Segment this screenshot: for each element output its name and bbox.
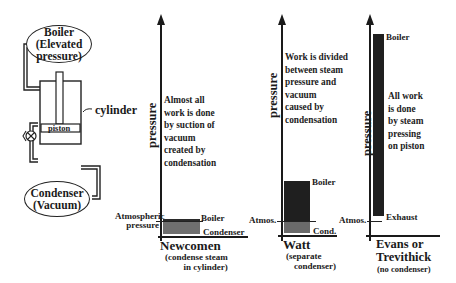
piston-label: piston (48, 123, 70, 133)
condenser-label: Condenser (30, 187, 83, 199)
panel-note: All work is done by steam pressing on pi… (388, 90, 424, 153)
engine-subtitle: (separate condenser) (286, 251, 336, 271)
panel-note: Work is divided between steam pressure a… (285, 51, 348, 127)
atmospheric-label: Atmos. (249, 215, 276, 225)
boiler-pressure-label: Boiler (386, 32, 410, 42)
engine-name: Evans or Trevithick (376, 238, 431, 264)
engine-subtitle: (condense steam in cylinder) (165, 252, 228, 272)
boiler-pressure-label: Boiler (312, 177, 336, 187)
condenser-pressure-label: Condenser (203, 227, 245, 237)
engine-subtitle: (no condenser) (377, 264, 431, 274)
boiler-sublabel-2: pressure) (36, 50, 82, 62)
atmospheric-line (367, 221, 382, 222)
panel-note: Almost all work is done by suction of va… (164, 94, 216, 170)
atmospheric-line (156, 221, 203, 222)
atmospheric-label: Atmospheric pressure (115, 212, 159, 230)
bar-steam-pressure (373, 34, 384, 216)
exhaust-pressure-label: Exhaust (386, 212, 418, 222)
y-axis (160, 22, 162, 241)
y-axis (281, 22, 283, 241)
boiler-ellipse: Boiler (Elevated pressure) (26, 25, 92, 63)
atmospheric-line (277, 221, 316, 222)
boiler-label: Boiler (44, 26, 74, 38)
bar-vacuum-portion (284, 222, 310, 233)
boiler-pressure-label: Boiler (201, 213, 225, 223)
bar-boiler-portion (284, 181, 310, 222)
condenser-pressure-label: Cond. (313, 226, 336, 236)
atmospheric-label: Atmos. (339, 215, 366, 225)
cylinder-label: cylinder (95, 103, 137, 118)
condenser-sublabel: (Vacuum) (33, 199, 81, 211)
y-axis-label: pressure (145, 103, 160, 148)
condenser-ellipse: Condenser (Vacuum) (24, 181, 90, 217)
y-axis-label: pressure (266, 73, 281, 118)
bar-vacuum-portion (163, 222, 200, 234)
valve-icon (23, 131, 36, 141)
boiler-sublabel: (Elevated (36, 38, 83, 50)
